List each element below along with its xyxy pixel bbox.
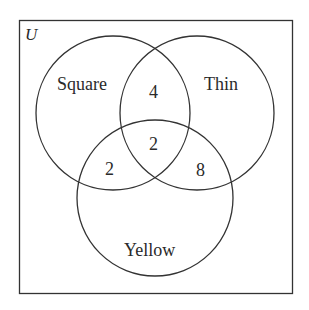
thin-set-label: Thin [204,74,238,94]
region-square-yellow: 2 [105,159,114,179]
yellow-set-label: Yellow [124,240,175,260]
region-thin-yellow: 8 [196,160,205,180]
region-all-three: 2 [149,134,158,154]
region-square-thin: 4 [149,82,158,102]
venn-diagram: U Square Thin Yellow 4 2 2 8 [0,0,309,310]
universe-label: U [25,25,39,44]
square-set-label: Square [57,74,107,94]
